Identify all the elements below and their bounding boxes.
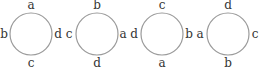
label-bottom: d [93, 56, 101, 70]
circle-group-2: b c a d [66, 0, 127, 70]
label-right: a [119, 27, 126, 41]
label-bottom: a [158, 56, 165, 70]
label-left: a [196, 27, 203, 41]
label-right: c [252, 27, 259, 41]
label-left: d [130, 27, 138, 41]
circle-group-4: d a c b [196, 0, 258, 70]
circle-group-3: c d b a [130, 0, 193, 70]
label-left: b [0, 27, 8, 41]
circle-2 [76, 13, 118, 55]
label-right: d [54, 27, 62, 41]
circle-1 [10, 13, 52, 55]
label-right: b [185, 27, 193, 41]
label-bottom: c [28, 56, 35, 70]
label-top: c [159, 0, 166, 12]
label-bottom: b [224, 56, 232, 70]
label-top: d [224, 0, 232, 12]
circle-group-1: a b d c [0, 0, 62, 70]
label-left: c [66, 27, 73, 41]
circle-3 [141, 13, 183, 55]
label-top: b [93, 0, 101, 12]
label-top: a [27, 0, 34, 12]
circle-4 [207, 13, 249, 55]
circle-labels-diagram: a b d c b c a d c d b a d a c b [0, 0, 260, 71]
